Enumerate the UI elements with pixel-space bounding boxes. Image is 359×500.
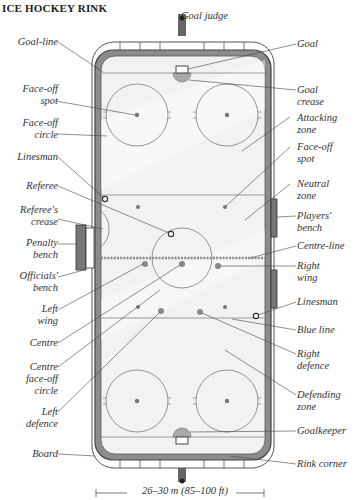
- goal-bottom: [176, 437, 188, 444]
- label-centre-line: Centre-line: [297, 240, 344, 252]
- label-board: Board: [4, 448, 58, 460]
- label-goal: Goal: [297, 38, 318, 50]
- label-attacking-zone: Attacking zone: [297, 112, 337, 136]
- label-blue-line: Blue line: [297, 324, 335, 336]
- goal-top: [176, 66, 188, 73]
- label-face-off-circle: Face-off circle: [6, 117, 58, 141]
- label-goal-judge: Goal judge: [181, 10, 228, 22]
- player-centre: [179, 261, 185, 267]
- label-centre-face-off-circle: Centre face-off circle: [4, 361, 58, 397]
- player-right-defence: [197, 309, 203, 315]
- rink-width-measurement: 26–30 m (85–100 ft): [95, 485, 275, 496]
- label-rink-corner: Rink corner: [297, 458, 347, 470]
- label-penalty-bench: Penalty bench: [4, 237, 58, 261]
- label-centre: Centre: [4, 337, 58, 349]
- label-left-defence: Left defence: [4, 406, 58, 430]
- label-players-bench: Players' bench: [297, 210, 331, 234]
- label-right-defence: Right defence: [297, 348, 329, 372]
- label-officials-bench: Officials' bench: [4, 270, 58, 294]
- label-defending-zone: Defending zone: [297, 389, 341, 413]
- label-referees-crease: Referee's crease: [4, 204, 58, 228]
- label-right-wing: Right wing: [297, 260, 320, 284]
- label-goal-crease: Goal crease: [297, 84, 324, 108]
- label-linesman-right: Linesman: [297, 296, 338, 308]
- label-goal-line: Goal-line: [6, 36, 58, 48]
- label-neutral-zone: Neutral zone: [297, 178, 329, 202]
- label-referee: Referee: [4, 180, 58, 192]
- label-left-wing: Left wing: [4, 303, 58, 327]
- label-linesman-left: Linesman: [4, 151, 58, 163]
- label-face-off-spot: Face-off spot: [6, 83, 58, 107]
- label-goalkeeper: Goalkeeper: [297, 425, 346, 437]
- linesman-right-marker: [253, 313, 258, 318]
- referee-marker: [168, 231, 173, 236]
- players-bench-bottom: [271, 270, 277, 308]
- players-bench-top: [271, 199, 277, 237]
- officials-bench-box: [86, 228, 94, 268]
- label-face-off-spot-right: Face-off spot: [297, 141, 333, 165]
- penalty-bench-box: [76, 225, 86, 270]
